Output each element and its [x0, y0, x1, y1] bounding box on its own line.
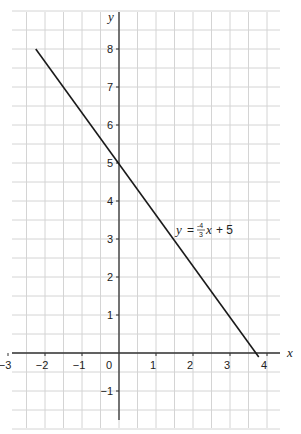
x-tick-label: 3	[224, 359, 230, 371]
x-tick-label: 1	[150, 359, 156, 371]
equation-annotation: y = -4 3 x + 5	[174, 222, 233, 238]
svg-text:+ 5: + 5	[216, 223, 233, 237]
y-tick-label: 8	[107, 43, 113, 55]
x-tick-label: −2	[36, 359, 49, 371]
x-axis-label: x	[286, 345, 293, 360]
x-tick-label: −1	[73, 359, 86, 371]
svg-text:x: x	[205, 222, 212, 237]
grid	[12, 11, 280, 429]
svg-text:=: =	[187, 223, 194, 237]
y-tick-label: 4	[107, 195, 113, 207]
y-tick-label: −1	[100, 385, 113, 397]
svg-text:3: 3	[199, 231, 203, 238]
y-tick-label: 7	[107, 81, 113, 93]
x-tick-label: 0	[106, 359, 112, 371]
y-tick-label: 3	[107, 233, 113, 245]
chart: −3−2−101234−112345678 x y y = -4 3 x + 5	[0, 0, 301, 434]
data-series	[36, 49, 259, 357]
y-tick-label: 2	[107, 271, 113, 283]
y-axis-label: y	[106, 9, 114, 24]
y-tick-label: 6	[107, 119, 113, 131]
axes	[12, 12, 280, 420]
x-tick-label: 2	[187, 359, 193, 371]
x-tick-label: −3	[0, 359, 11, 371]
svg-text:-4: -4	[197, 222, 203, 229]
y-tick-label: 1	[107, 309, 113, 321]
svg-text:y: y	[174, 222, 182, 237]
x-tick-label: 4	[261, 359, 267, 371]
y-tick-label: 5	[107, 157, 113, 169]
line-series	[36, 49, 259, 357]
